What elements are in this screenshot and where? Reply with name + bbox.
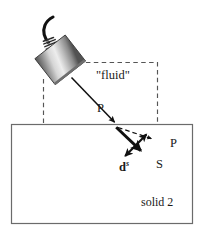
shear-wave-label: S [156, 158, 163, 171]
displacement-symbol-base: d [119, 160, 126, 174]
displacement-vector-label: ds [119, 160, 129, 174]
incident-p-wave-label: P [97, 102, 104, 115]
displacement-symbol-superscript: s [126, 159, 129, 168]
incident-p-ray-arrow [72, 78, 115, 123]
transducer-assembly [35, 17, 86, 85]
fluid-region-label: "fluid" [96, 69, 130, 82]
transducer-body [35, 35, 86, 85]
solid2-region-label: solid 2 [141, 196, 173, 208]
wave-mode-conversion-diagram: "fluid" P P S ds solid 2 [0, 0, 204, 231]
diagram-canvas [0, 0, 204, 231]
refracted-p-wave-label: P [170, 137, 177, 150]
